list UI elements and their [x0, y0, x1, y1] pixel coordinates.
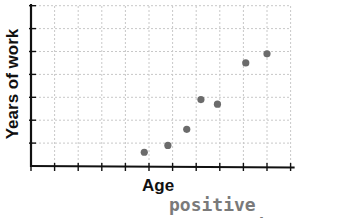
data-point — [214, 101, 221, 108]
data-point — [242, 59, 249, 66]
data-point — [263, 50, 270, 57]
data-point — [197, 96, 204, 103]
data-point — [164, 142, 171, 149]
scatter-plot — [0, 0, 357, 218]
x-axis-label: Age — [142, 176, 174, 196]
data-point — [141, 149, 148, 156]
y-axis-label: Years of work — [3, 19, 23, 149]
x-axis — [30, 166, 295, 168]
data-point — [183, 126, 190, 133]
correlation-annotation: positive correlation — [169, 194, 357, 218]
